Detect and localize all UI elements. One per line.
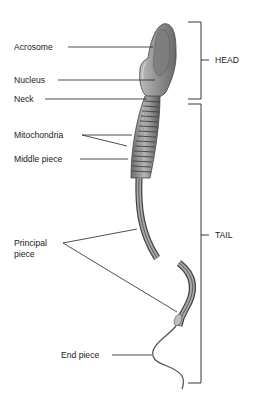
label-principal-piece-line1: Principal <box>14 238 47 248</box>
head-bracket <box>188 22 209 99</box>
label-tail-region: TAIL <box>215 230 233 240</box>
head-shape <box>140 24 176 98</box>
middle-piece-shape <box>131 96 160 178</box>
label-head-region: HEAD <box>215 55 239 65</box>
label-nucleus: Nucleus <box>14 75 45 85</box>
label-principal-piece-line2: piece <box>14 249 35 259</box>
label-neck: Neck <box>14 94 34 104</box>
principal-piece-shape <box>139 178 193 327</box>
label-acrosome: Acrosome <box>14 42 53 52</box>
tail-bracket <box>188 104 209 383</box>
principal-leader-1 <box>63 229 137 243</box>
label-middle-piece: Middle piece <box>14 154 62 164</box>
label-mitochondria: Mitochondria <box>14 130 63 140</box>
end-piece-shape <box>153 326 184 389</box>
principal-leader-2 <box>63 243 177 312</box>
mitochondria-leader-2 <box>82 135 127 146</box>
label-end-piece: End piece <box>61 350 99 360</box>
